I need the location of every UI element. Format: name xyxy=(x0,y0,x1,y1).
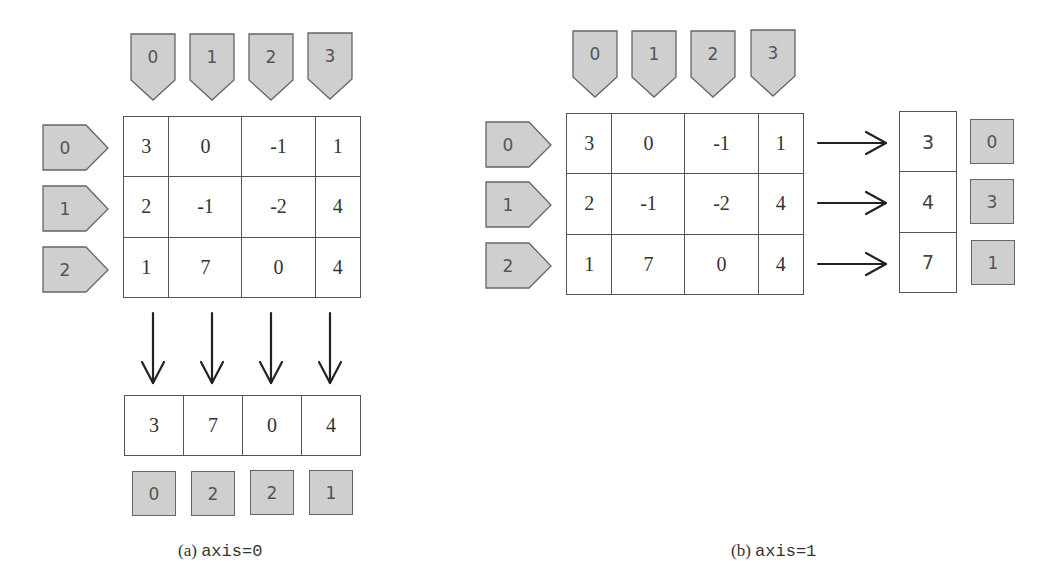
matrix-cell: 3 xyxy=(124,117,169,177)
matrix-row: 2 -1 -2 4 xyxy=(124,177,361,237)
result-index-box: 0 xyxy=(132,471,176,516)
result-index-box: 1 xyxy=(309,470,353,515)
column-tag: 0 xyxy=(572,30,618,98)
column-tag: 1 xyxy=(189,33,235,101)
row-tag: 0 xyxy=(485,121,553,169)
matrix-grid: 3 0 -1 1 2 -1 -2 4 1 7 0 4 xyxy=(123,116,361,298)
result-cell: 3 xyxy=(125,396,184,456)
column-tag: 1 xyxy=(631,30,677,98)
matrix-row: 3 0 -1 1 xyxy=(567,114,804,174)
down-arrows-icon xyxy=(120,305,370,390)
row-tag: 0 xyxy=(42,124,110,172)
right-arrows-icon xyxy=(812,115,897,295)
result-cell: 7 xyxy=(184,396,243,456)
matrix-cell: 0 xyxy=(242,237,315,297)
caption-b: (b) axis=1 xyxy=(731,541,816,561)
column-tag: 2 xyxy=(248,33,294,101)
column-tag: 3 xyxy=(307,32,353,100)
matrix-row: 2 -1 -2 4 xyxy=(567,174,804,234)
matrix-cell: 1 xyxy=(124,237,169,297)
matrix-cell: 0 xyxy=(685,234,758,294)
matrix-cell: 2 xyxy=(567,174,612,234)
matrix-cell: 4 xyxy=(315,237,360,297)
caption-a: (a) axis=0 xyxy=(178,541,262,561)
result-cell: 3 xyxy=(900,112,957,172)
row-tag: 2 xyxy=(42,246,110,294)
result-column: 3 4 7 xyxy=(899,111,957,293)
matrix-cell: -1 xyxy=(612,174,685,234)
column-tag: 2 xyxy=(690,30,736,98)
result-row: 3 7 0 4 xyxy=(124,395,361,456)
column-tag: 3 xyxy=(750,29,796,97)
matrix-cell: 4 xyxy=(758,174,803,234)
matrix-cell: 2 xyxy=(124,177,169,237)
row-tag: 1 xyxy=(42,185,110,233)
matrix-cell: 3 xyxy=(567,114,612,174)
matrix-cell: 7 xyxy=(612,234,685,294)
matrix-cell: 0 xyxy=(169,117,242,177)
matrix-cell: -1 xyxy=(685,114,758,174)
result-index-box: 1 xyxy=(971,240,1015,285)
matrix-cell: 4 xyxy=(758,234,803,294)
matrix-cell: -1 xyxy=(169,177,242,237)
matrix-row: 3 0 -1 1 xyxy=(124,117,361,177)
result-index-box: 3 xyxy=(970,179,1014,224)
matrix-row: 1 7 0 4 xyxy=(567,234,804,294)
matrix-cell: 0 xyxy=(612,114,685,174)
matrix-cell: 1 xyxy=(758,114,803,174)
matrix-cell: -2 xyxy=(685,174,758,234)
row-tag: 1 xyxy=(485,181,553,229)
matrix-cell: -1 xyxy=(242,117,315,177)
row-tag: 2 xyxy=(485,242,553,290)
matrix-cell: -2 xyxy=(242,177,315,237)
matrix-row: 1 7 0 4 xyxy=(124,237,361,297)
result-index-box: 2 xyxy=(250,470,294,515)
result-cell: 0 xyxy=(243,396,302,456)
matrix-grid: 3 0 -1 1 2 -1 -2 4 1 7 0 4 xyxy=(566,113,804,295)
result-index-box: 2 xyxy=(191,471,235,516)
matrix-cell: 1 xyxy=(567,234,612,294)
result-cell: 4 xyxy=(302,396,361,456)
matrix-cell: 4 xyxy=(315,177,360,237)
column-tag: 0 xyxy=(130,33,176,101)
result-index-box: 0 xyxy=(970,119,1014,164)
result-cell: 7 xyxy=(900,232,957,292)
matrix-cell: 7 xyxy=(169,237,242,297)
result-cell: 4 xyxy=(900,172,957,232)
matrix-cell: 1 xyxy=(315,117,360,177)
